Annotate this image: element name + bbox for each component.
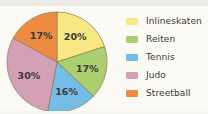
legend-item: Judo <box>126 66 208 84</box>
pie-chart-svg: 20%17%16%30%17% <box>0 0 116 114</box>
legend-color-swatch <box>126 18 138 25</box>
legend-item-label: Streetball <box>146 88 191 98</box>
legend-item-label: Tennis <box>146 52 175 62</box>
legend-color-swatch <box>126 72 138 79</box>
pie-slice-label: 20% <box>64 31 87 42</box>
legend-item-label: Judo <box>146 70 166 80</box>
chart-legend: InlineskatenReitenTennisJudoStreetball <box>126 12 208 102</box>
legend-color-swatch <box>126 36 138 43</box>
pie-chart-figure: 20%17%16%30%17% InlineskatenReitenTennis… <box>0 0 208 114</box>
legend-color-swatch <box>126 54 138 61</box>
legend-item-label: Inlineskaten <box>146 16 202 26</box>
pie-slice-label: 17% <box>76 63 99 74</box>
pie-slice-group <box>7 12 107 112</box>
pie-slice-label: 30% <box>18 70 41 81</box>
legend-item: Tennis <box>126 48 208 66</box>
pie-chart: 20%17%16%30%17% <box>0 0 116 114</box>
legend-item-label: Reiten <box>146 34 175 44</box>
page-bottom-fade <box>0 111 208 114</box>
legend-color-swatch <box>126 90 138 97</box>
legend-item: Inlineskaten <box>126 12 208 30</box>
pie-slice-label: 16% <box>55 86 78 97</box>
pie-slice-label: 17% <box>30 30 53 41</box>
legend-item: Reiten <box>126 30 208 48</box>
legend-item: Streetball <box>126 84 208 102</box>
